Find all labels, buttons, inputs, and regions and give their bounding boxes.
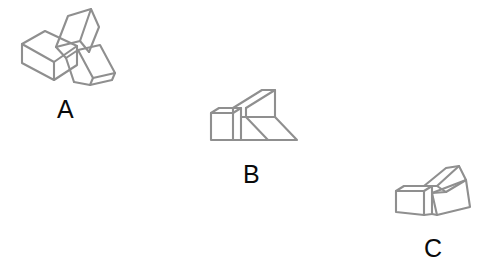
figure-c-group	[396, 166, 470, 215]
figure-label-c: C	[424, 236, 442, 261]
figure-label-b: B	[243, 162, 260, 187]
figure-b-cube-left-face	[211, 113, 233, 140]
figure-b-group	[211, 90, 297, 140]
figure-label-a: A	[57, 97, 74, 122]
figure-stage: A B C	[0, 0, 487, 279]
shapes-canvas	[0, 0, 487, 279]
figure-c-ramp-join-edge	[432, 192, 446, 193]
figure-a-group	[22, 9, 115, 85]
